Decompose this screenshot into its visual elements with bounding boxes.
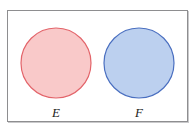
venn-circles-canvas	[0, 0, 196, 128]
set-circle-f	[104, 28, 174, 98]
venn-diagram-figure: E F	[0, 0, 196, 128]
set-circle-e	[21, 28, 91, 98]
set-label-e: E	[46, 106, 66, 119]
set-label-f: F	[129, 106, 149, 119]
